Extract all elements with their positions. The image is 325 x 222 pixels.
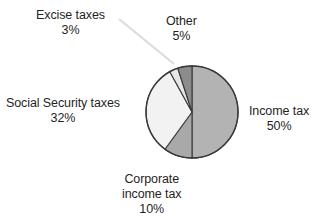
slice-label-social-security-taxes-value: 32% [6,111,120,126]
pie-chart: Income tax 50% Social Security taxes 32%… [0,0,325,222]
slice-label-income-tax: Income tax 50% [249,104,309,134]
slice-label-corporate-income-tax: Corporate income tax 10% [122,172,181,217]
slice-label-income-tax-value: 50% [249,119,309,134]
slice-label-other-name: Other [166,14,197,29]
pie-slice-income-tax[interactable] [192,66,238,158]
slice-label-income-tax-name: Income tax [249,104,309,119]
slice-label-excise-taxes-name: Excise taxes [36,8,105,23]
slice-label-excise-taxes: Excise taxes 3% [36,8,105,38]
slice-label-corporate-income-tax-name-line2: income tax [122,187,181,202]
slice-label-corporate-income-tax-name-line1: Corporate [122,172,181,187]
slice-label-other-value: 5% [166,29,197,44]
slice-label-social-security-taxes: Social Security taxes 32% [6,96,120,126]
slice-label-social-security-taxes-name: Social Security taxes [6,96,120,111]
slice-label-excise-taxes-value: 3% [36,23,105,38]
slice-label-corporate-income-tax-value: 10% [122,202,181,217]
slice-label-other: Other 5% [166,14,197,44]
